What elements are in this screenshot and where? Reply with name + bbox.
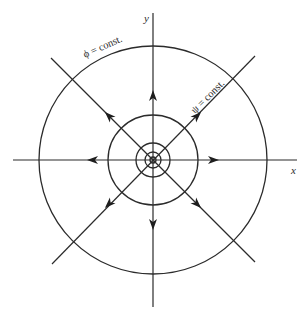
equipotential-label: ϕ = const. — [81, 33, 123, 60]
arrow-southwest-icon — [102, 197, 115, 210]
y-axis-label: y — [143, 12, 149, 24]
x-axis-label: x — [290, 164, 296, 176]
streamline-label: ψ = const. — [189, 78, 227, 116]
potential-flow-source-diagram: y x ϕ = const. ψ = const. — [0, 0, 307, 316]
